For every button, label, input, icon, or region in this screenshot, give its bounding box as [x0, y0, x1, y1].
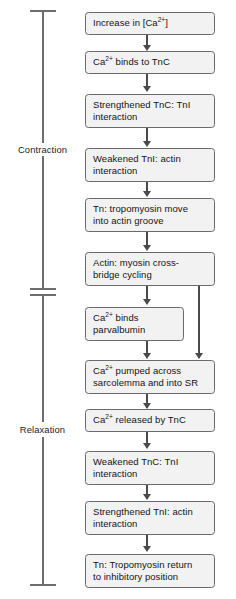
flow-node-step-10-label: Weakened TnC: TnIinteraction — [93, 456, 208, 480]
connector-9-10-arrow — [143, 443, 151, 449]
flow-node-step-8-label: Ca2+ pumped acrosssarcolemma and into SR — [93, 365, 208, 389]
phase-label-relaxation: Relaxation — [0, 424, 85, 435]
flow-node-step-12-label: Tn: Tropomyosin returnto inhibitory posi… — [93, 559, 208, 583]
bracket-stem-relaxation-upper — [42, 294, 44, 422]
flowchart-canvas: Contraction Relaxation — [0, 0, 236, 599]
connector-6-8-bypass-line — [198, 286, 200, 358]
connector-7-8-arrow — [143, 353, 151, 359]
flow-node-step-1-label: Increase in [Ca2+] — [93, 17, 208, 29]
connector-5-6-arrow — [143, 245, 151, 251]
flow-node-step-2[interactable]: Ca2+ binds to TnC — [85, 51, 215, 74]
flow-node-step-2-label: Ca2+ binds to TnC — [93, 56, 208, 68]
connector-3-4-line — [146, 128, 148, 142]
bracket-stem-relaxation-lower — [42, 437, 44, 585]
flow-node-step-6-label: Actin: myosin cross-bridge cycling — [93, 257, 208, 281]
connector-11-12-arrow — [143, 546, 151, 552]
flow-node-step-6[interactable]: Actin: myosin cross-bridge cycling — [85, 252, 215, 286]
connector-2-3-arrow — [143, 86, 151, 92]
bracket-stem-contraction-lower — [42, 156, 44, 288]
flow-node-step-11[interactable]: Strengthened TnI: actininteraction — [85, 501, 215, 535]
phase-label-contraction: Contraction — [0, 144, 85, 155]
flow-node-step-3[interactable]: Strengthened TnC: TnIinteraction — [85, 94, 215, 128]
connector-10-11-arrow — [143, 494, 151, 500]
bracket-divider-cap-upper — [30, 288, 56, 290]
connector-6-7-arrow — [143, 299, 151, 305]
connector-5-6-line — [146, 232, 148, 246]
connector-6-8-bypass-arrow — [195, 353, 203, 359]
flow-node-step-5[interactable]: Tn: tropomyosin moveinto actin groove — [85, 198, 215, 232]
flow-node-step-5-label: Tn: tropomyosin moveinto actin groove — [93, 203, 208, 227]
flow-node-step-10[interactable]: Weakened TnC: TnIinteraction — [85, 451, 215, 485]
flow-node-step-8[interactable]: Ca2+ pumped acrosssarcolemma and into SR — [85, 360, 215, 394]
flow-node-step-12[interactable]: Tn: Tropomyosin returnto inhibitory posi… — [85, 554, 215, 588]
flow-node-step-7-label: Ca2+ bindsparvalbumin — [93, 312, 177, 336]
connector-3-4-arrow — [143, 141, 151, 147]
flow-node-step-1[interactable]: Increase in [Ca2+] — [85, 12, 215, 35]
flow-node-step-4[interactable]: Weakened TnI: actininteraction — [85, 148, 215, 182]
flow-node-step-7[interactable]: Ca2+ bindsparvalbumin — [85, 307, 184, 341]
flow-node-step-4-label: Weakened TnI: actininteraction — [93, 153, 208, 177]
bracket-bottom-cap — [30, 584, 56, 586]
flow-node-step-9[interactable]: Ca2+ released by TnC — [85, 409, 215, 432]
connector-4-5-arrow — [143, 191, 151, 197]
bracket-stem-contraction — [42, 10, 44, 143]
flow-node-step-11-label: Strengthened TnI: actininteraction — [93, 506, 208, 530]
flow-node-step-9-label: Ca2+ released by TnC — [93, 414, 208, 426]
flow-node-step-3-label: Strengthened TnC: TnIinteraction — [93, 99, 208, 123]
